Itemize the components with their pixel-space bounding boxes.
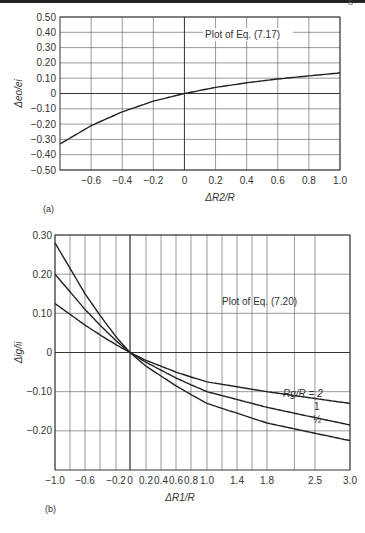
x-axis-label: ΔR1/R bbox=[164, 492, 195, 503]
x-tick-label: 1.0 bbox=[333, 175, 347, 186]
x-tick-label: −0.6 bbox=[75, 475, 95, 486]
x-tick-label: 1.8 bbox=[260, 475, 274, 486]
panel-label: (a) bbox=[43, 204, 54, 214]
x-tick-label: 2.5 bbox=[308, 475, 322, 486]
equation-annotation: Plot of Eq. (7.17) bbox=[205, 29, 280, 40]
y-tick-label: −0.30 bbox=[31, 134, 57, 145]
data-curve bbox=[55, 274, 350, 425]
y-tick-label: −0.10 bbox=[27, 386, 53, 397]
y-tick-label: −0.40 bbox=[31, 149, 57, 160]
data-curve bbox=[60, 73, 340, 144]
y-tick-label: −0.20 bbox=[31, 119, 57, 130]
y-tick-label: −0.50 bbox=[31, 165, 57, 176]
series-label-rg1: 1 bbox=[314, 401, 320, 412]
y-axis-label: Δig/ii bbox=[13, 341, 24, 364]
panel-label: (b) bbox=[45, 504, 56, 514]
x-tick-label: 0.4 bbox=[154, 475, 168, 486]
equation-annotation: Plot of Eq. (7.20) bbox=[222, 296, 297, 307]
y-tick-label: 0.20 bbox=[33, 269, 53, 280]
x-tick-label: 0.6 bbox=[271, 175, 285, 186]
x-tick-label: 0.6 bbox=[169, 475, 183, 486]
x-tick-label: 1.0 bbox=[200, 475, 214, 486]
x-tick-label: −0.6 bbox=[81, 175, 101, 186]
y-tick-label: −0.10 bbox=[31, 103, 57, 114]
series-label-rg-half: ½ bbox=[313, 414, 322, 425]
x-axis-label: ΔR2/R bbox=[204, 192, 235, 203]
y-tick-label: 0.50 bbox=[37, 12, 57, 23]
y-tick-label: 0.30 bbox=[37, 42, 57, 53]
x-tick-label: −0.2 bbox=[106, 475, 126, 486]
chart-a: 0.500.400.300.200.100−0.10−0.20−0.30−0.4… bbox=[13, 12, 347, 215]
x-tick-label: −0.2 bbox=[143, 175, 163, 186]
y-tick-label: 0.40 bbox=[37, 27, 57, 38]
x-tick-label: 0.8 bbox=[184, 475, 198, 486]
figure-canvas: 0.500.400.300.200.100−0.10−0.20−0.30−0.4… bbox=[0, 0, 365, 533]
x-tick-label: −0.4 bbox=[112, 175, 132, 186]
y-tick-label: −0.20 bbox=[27, 425, 53, 436]
x-tick-label: 0.8 bbox=[302, 175, 316, 186]
data-curve bbox=[55, 243, 350, 441]
x-tick-label: 0.2 bbox=[139, 475, 153, 486]
y-tick-label: 0.10 bbox=[37, 73, 57, 84]
x-tick-label: 0 bbox=[127, 475, 133, 486]
x-tick-label: 0.2 bbox=[209, 175, 223, 186]
y-tick-label: 0.10 bbox=[33, 308, 53, 319]
x-tick-label: 3.0 bbox=[343, 475, 357, 486]
x-tick-label: 0 bbox=[182, 175, 188, 186]
x-tick-label: 1.4 bbox=[230, 475, 244, 486]
y-tick-label: 0 bbox=[50, 88, 56, 99]
y-tick-label: 0.20 bbox=[37, 57, 57, 68]
y-tick-label: 0.30 bbox=[33, 230, 53, 241]
x-tick-label: 0.4 bbox=[240, 175, 254, 186]
series-label-rg2: Rg/R = 2 bbox=[283, 388, 323, 399]
x-tick-label: −1.0 bbox=[45, 475, 65, 486]
y-axis-label: Δeo/ei bbox=[13, 79, 24, 109]
y-tick-label: 0 bbox=[46, 347, 52, 358]
chart-b: 0.300.200.100−0.10−0.20−1.0−0.6−0.200.20… bbox=[13, 230, 357, 515]
